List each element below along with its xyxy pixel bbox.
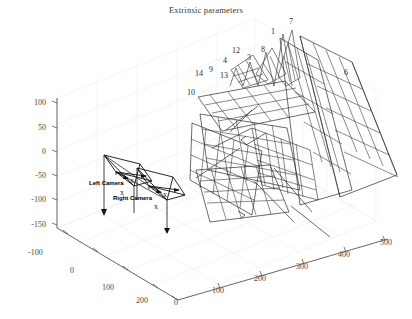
grid-index-12: 12 — [232, 46, 240, 55]
left-camera-x-axis-letter: X — [130, 178, 134, 184]
grid-index-13: 13 — [220, 71, 228, 80]
y-tick-neg150: -150 — [14, 220, 46, 229]
z-tick-100: 100 — [212, 286, 224, 295]
y-tick-neg100: -100 — [14, 195, 46, 204]
z-tick-0: 0 — [174, 298, 178, 307]
x-tick-100: 100 — [102, 283, 114, 292]
left-camera-x-axis-letter-2: X — [120, 190, 124, 196]
plane-upper-left — [198, 81, 315, 131]
grid-index-6: 6 — [344, 68, 348, 77]
grid-index-1: 1 — [271, 27, 275, 36]
y-tick-100: 100 — [14, 98, 46, 107]
grid-index-7: 7 — [289, 17, 293, 26]
y-tick-neg50: -50 — [14, 171, 46, 180]
z-tick-500: 500 — [380, 238, 392, 247]
left-camera-label: Left Camera — [89, 180, 124, 186]
y-tick-50: 50 — [14, 123, 46, 132]
grid-index-14: 14 — [195, 69, 203, 78]
plot-canvas — [0, 0, 412, 319]
x-tick-200: 200 — [136, 296, 148, 305]
z-tick-200: 200 — [254, 274, 266, 283]
y-tick-0: 0 — [14, 147, 46, 156]
grid-index-9: 9 — [209, 65, 213, 74]
grid-index-10: 10 — [187, 88, 195, 97]
right-camera-label: Right Camera — [113, 195, 152, 201]
right-camera-x-axis-letter: X — [163, 192, 167, 198]
z-tick-300: 300 — [296, 262, 308, 271]
axis-tick-marks — [52, 101, 385, 300]
z-tick-400: 400 — [338, 250, 350, 259]
calibration-planes — [190, 30, 398, 237]
grid-index-4: 4 — [223, 56, 227, 65]
right-camera-x-axis-letter-2: X — [154, 204, 158, 210]
x-tick-0: 0 — [70, 266, 74, 275]
background-grid — [57, 19, 376, 300]
plane-upper-folds — [231, 30, 300, 88]
grid-index-3: 3 — [247, 53, 251, 62]
axis-lines — [57, 98, 388, 300]
grid-index-8: 8 — [261, 45, 265, 54]
x-tick-neg100: -100 — [28, 248, 43, 257]
extrinsic-parameters-figure: Extrinsic parameters — [0, 0, 412, 319]
